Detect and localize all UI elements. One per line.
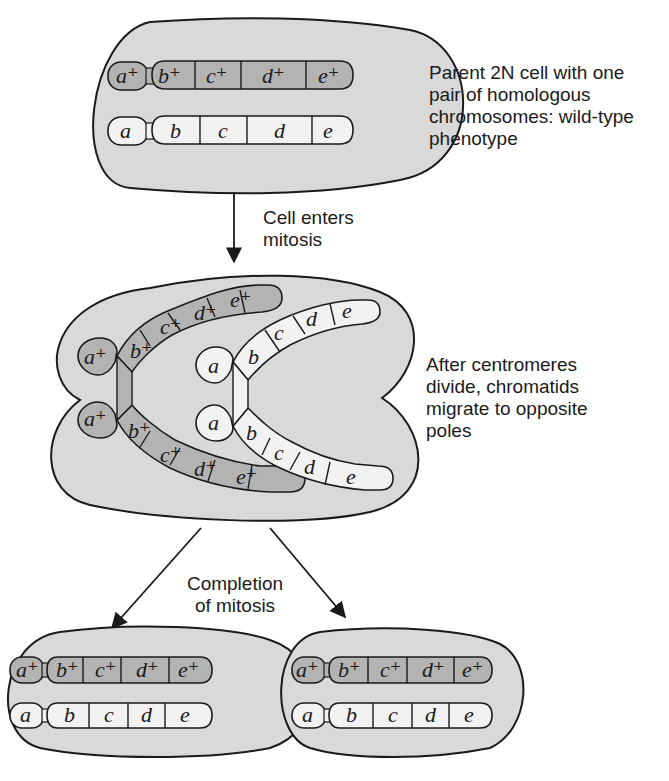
caption-line: Cell enters xyxy=(263,207,354,229)
gene-label: a xyxy=(208,410,219,435)
gene-label: d⁺ xyxy=(262,63,285,88)
gene-label: c⁺ xyxy=(160,314,181,339)
gene-label: c⁺ xyxy=(160,442,181,467)
caption-line: migrate to opposite xyxy=(426,398,588,420)
gene-label: b xyxy=(64,702,75,727)
gene-label: b⁺ xyxy=(130,338,153,363)
gene-label: e xyxy=(323,118,333,143)
caption-line: phenotype xyxy=(429,128,634,150)
caption-line: poles xyxy=(426,420,588,442)
gene-label: e⁺ xyxy=(236,464,257,489)
gene-label: d xyxy=(306,306,318,331)
caption-line: pair of homologous xyxy=(429,84,634,106)
gene-label: a⁺ xyxy=(296,657,319,682)
gene-label: b xyxy=(346,702,357,727)
gene-label: b xyxy=(248,344,259,369)
gene-label: d xyxy=(274,118,286,143)
gene-label: c⁺ xyxy=(95,657,116,682)
gene-label: d xyxy=(304,454,316,479)
enter-mitosis-caption: Cell enters mitosis xyxy=(263,207,354,251)
gene-label: c xyxy=(274,320,284,345)
daughter-cell-right: a⁺ b⁺ c⁺ d⁺ e⁺ a b c d e xyxy=(281,628,523,757)
gene-label: d⁺ xyxy=(194,300,217,325)
gene-label: c⁺ xyxy=(380,657,401,682)
daughter1-wildtype-chromosome: a⁺ b⁺ c⁺ d⁺ e⁺ xyxy=(10,657,212,683)
gene-label: e⁺ xyxy=(178,657,199,682)
gene-label: a⁺ xyxy=(16,657,39,682)
gene-label: d xyxy=(141,702,153,727)
completion-caption: Completion of mitosis xyxy=(176,573,294,617)
gene-label: d⁺ xyxy=(136,657,159,682)
gene-label: a⁺ xyxy=(84,406,107,431)
daughter-cell-left: a⁺ b⁺ c⁺ d⁺ e⁺ a b c d e xyxy=(8,626,311,757)
gene-label: e⁺ xyxy=(318,63,339,88)
gene-label: b xyxy=(246,420,257,445)
dividing-cell: a⁺ a⁺ b⁺ c⁺ d⁺ e⁺ b⁺ c⁺ d⁺ e⁺ a a b xyxy=(51,276,418,521)
gene-label: d⁺ xyxy=(422,657,445,682)
caption-line: divide, chromatids xyxy=(426,376,588,398)
daughter2-mutant-chromosome: a b c d e xyxy=(292,702,492,728)
gene-label: d⁺ xyxy=(194,456,217,481)
parent-mutant-chromosome: a b c d e xyxy=(108,116,353,145)
daughter1-mutant-chromosome: a b c d e xyxy=(10,702,212,728)
gene-label: b⁺ xyxy=(56,657,79,682)
gene-label: b⁺ xyxy=(158,63,181,88)
caption-line: chromosomes: wild-type xyxy=(429,106,634,128)
gene-label: a⁺ xyxy=(116,63,139,88)
parent-cell-caption: Parent 2N cell with one pair of homologo… xyxy=(429,62,634,150)
gene-label: a xyxy=(20,702,31,727)
gene-label: e⁺ xyxy=(230,287,251,312)
gene-label: c⁺ xyxy=(206,63,227,88)
gene-label: c xyxy=(104,702,114,727)
parent-wildtype-chromosome: a⁺ b⁺ c⁺ d⁺ e⁺ xyxy=(108,61,353,90)
gene-label: b xyxy=(170,118,181,143)
gene-label: d xyxy=(425,702,437,727)
daughter2-wildtype-chromosome: a⁺ b⁺ c⁺ d⁺ e⁺ xyxy=(292,657,492,683)
gene-label: e⁺ xyxy=(462,657,483,682)
caption-line: After centromeres xyxy=(426,354,588,376)
gene-label: b⁺ xyxy=(338,657,361,682)
gene-label: b⁺ xyxy=(128,418,151,443)
gene-label: a⁺ xyxy=(84,344,107,369)
gene-label: e xyxy=(180,702,190,727)
caption-line: mitosis xyxy=(263,229,354,251)
gene-label: c xyxy=(388,702,398,727)
gene-label: e xyxy=(346,464,356,489)
gene-label: e xyxy=(464,702,474,727)
gene-label: a xyxy=(302,702,313,727)
gene-label: a xyxy=(208,353,219,378)
caption-line: Completion xyxy=(176,573,294,595)
chromatid-migration-caption: After centromeres divide, chromatids mig… xyxy=(426,354,588,442)
gene-label: c xyxy=(274,440,284,465)
gene-label: c xyxy=(218,118,228,143)
caption-line: Parent 2N cell with one xyxy=(429,62,634,84)
parent-cell: a⁺ b⁺ c⁺ d⁺ e⁺ a b c d e xyxy=(93,18,463,193)
gene-label: e xyxy=(342,298,352,323)
caption-line: of mitosis xyxy=(176,595,294,617)
gene-label: a xyxy=(120,118,131,143)
